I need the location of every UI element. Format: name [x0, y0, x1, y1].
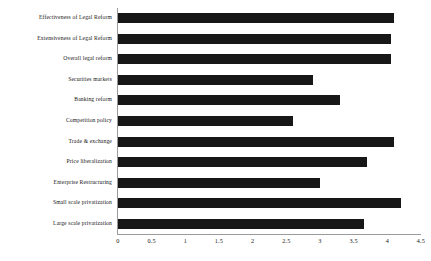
x-tick-label: 2: [251, 238, 254, 244]
category-label: Securities markets: [68, 77, 112, 83]
bar: [118, 54, 391, 64]
x-tick-label: 4.5: [417, 238, 425, 244]
x-tick-label: 1: [184, 238, 187, 244]
bar: [118, 95, 340, 105]
bar-row: Small scale privatization: [118, 193, 421, 214]
bar: [118, 116, 293, 126]
bar-row: Enterprise Restructuring: [118, 172, 421, 193]
x-tick-label: 2.5: [282, 238, 290, 244]
bar: [118, 75, 313, 85]
bar: [118, 13, 394, 23]
category-label: Banking reform: [74, 98, 112, 104]
x-tick-label: 3.5: [349, 238, 357, 244]
category-label: Effectiveness of Legal Reform: [39, 15, 112, 21]
category-label: Small scale privatization: [53, 200, 112, 206]
plot-area: Effectiveness of Legal ReformExtensivene…: [118, 8, 421, 234]
bar-row: Competition policy: [118, 111, 421, 132]
bar-row: Trade & exchange: [118, 131, 421, 152]
x-axis-line: [117, 234, 421, 235]
category-label: Enterprise Restructuring: [54, 180, 112, 186]
x-tick-label: 1.5: [215, 238, 223, 244]
bar: [118, 157, 367, 167]
bar: [118, 34, 391, 44]
category-label: Extensiveness of Legal Reform: [37, 36, 112, 42]
bar-row: Large scale privatization: [118, 213, 421, 234]
x-tick-label: 0: [116, 238, 119, 244]
bar-row: Effectiveness of Legal Reform: [118, 8, 421, 29]
bar-row: Price liberalization: [118, 152, 421, 173]
bar: [118, 198, 401, 208]
category-label: Overall legal reform: [63, 57, 112, 63]
x-tick-label: 3: [318, 238, 321, 244]
bar-chart: Effectiveness of Legal ReformExtensivene…: [0, 0, 431, 261]
bar-row: Securities markets: [118, 70, 421, 91]
bar: [118, 137, 394, 147]
category-label: Large scale privatization: [53, 221, 112, 227]
bar-row: Banking reform: [118, 90, 421, 111]
bar-row: Overall legal reform: [118, 49, 421, 70]
category-label: Price liberalization: [67, 159, 112, 165]
x-tick-label: 0.5: [147, 238, 155, 244]
category-label: Trade & exchange: [68, 139, 112, 145]
category-label: Competition policy: [66, 118, 112, 124]
bar: [118, 219, 364, 229]
bar: [118, 178, 320, 188]
x-tick-label: 4: [386, 238, 389, 244]
bar-row: Extensiveness of Legal Reform: [118, 29, 421, 50]
